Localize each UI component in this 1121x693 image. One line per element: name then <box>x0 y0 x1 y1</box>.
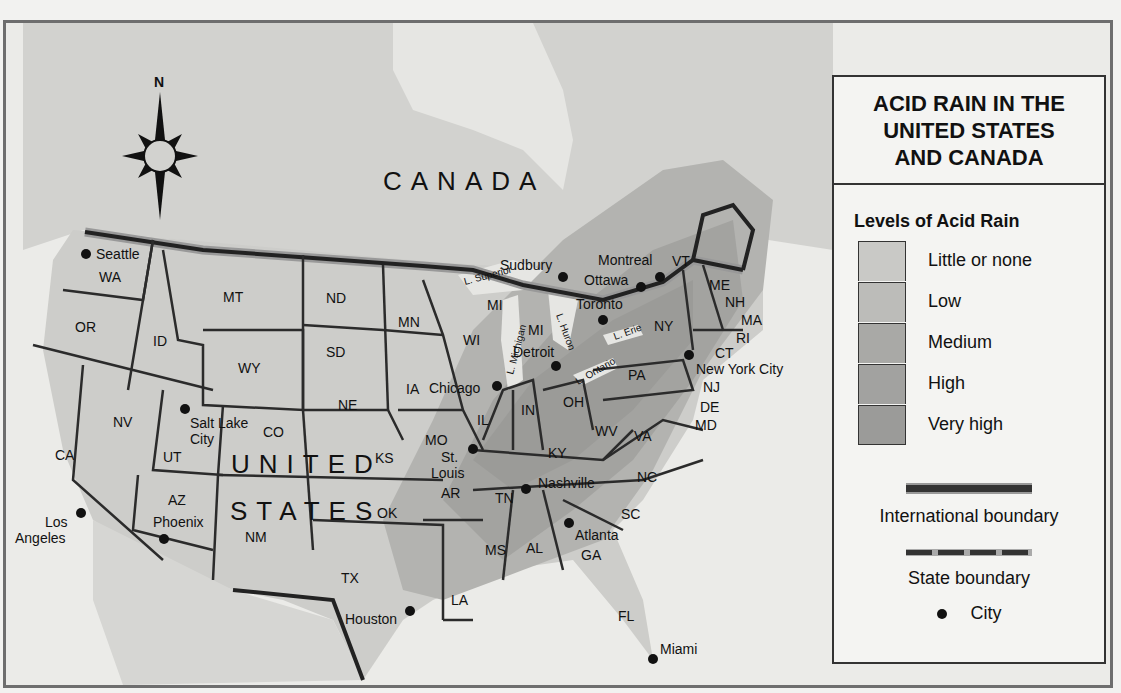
svg-text:Detroit: Detroit <box>513 344 554 360</box>
united-label: UNITED <box>231 449 382 479</box>
svg-text:Ottawa: Ottawa <box>584 272 629 288</box>
svg-text:NY: NY <box>654 318 674 334</box>
international-boundary-icon <box>906 483 1032 494</box>
svg-text:Salt Lake: Salt Lake <box>190 415 249 431</box>
svg-text:New York City: New York City <box>696 361 783 377</box>
svg-text:MO: MO <box>425 432 448 448</box>
svg-text:Seattle: Seattle <box>96 246 140 262</box>
svg-text:Angeles: Angeles <box>15 530 66 546</box>
svg-text:MS: MS <box>485 542 506 558</box>
svg-text:IL: IL <box>477 412 489 428</box>
svg-text:SD: SD <box>326 344 345 360</box>
legend-level-very-high: Very high <box>834 404 1104 445</box>
svg-text:Los: Los <box>45 514 68 530</box>
svg-text:WA: WA <box>99 269 122 285</box>
svg-text:IA: IA <box>406 381 420 397</box>
svg-text:NJ: NJ <box>703 379 720 395</box>
svg-text:VA: VA <box>634 428 652 444</box>
svg-text:St.: St. <box>441 449 458 465</box>
legend-level-medium: Medium <box>834 322 1104 363</box>
svg-text:Louis: Louis <box>431 465 464 481</box>
svg-text:WV: WV <box>595 423 618 439</box>
swatch-medium <box>858 323 906 363</box>
svg-text:OR: OR <box>75 319 96 335</box>
svg-text:Miami: Miami <box>660 641 697 657</box>
svg-text:City: City <box>190 431 214 447</box>
svg-text:TN: TN <box>495 490 514 506</box>
svg-text:AL: AL <box>526 540 543 556</box>
svg-text:ME: ME <box>709 277 730 293</box>
svg-text:MI: MI <box>528 322 544 338</box>
svg-text:KY: KY <box>548 445 567 461</box>
legend-level-little: Little or none <box>834 240 1104 281</box>
svg-text:IN: IN <box>521 402 535 418</box>
svg-text:MA: MA <box>741 312 763 328</box>
svg-text:CO: CO <box>263 424 284 440</box>
compass-north-label: N <box>154 74 164 90</box>
svg-text:NH: NH <box>725 294 745 310</box>
svg-text:FL: FL <box>618 608 635 624</box>
svg-text:DE: DE <box>700 399 719 415</box>
svg-text:ID: ID <box>153 333 167 349</box>
legend-heading: Levels of Acid Rain <box>854 211 1104 232</box>
svg-text:VT: VT <box>672 253 690 269</box>
svg-text:NC: NC <box>637 469 657 485</box>
legend-international-boundary: International boundary <box>834 483 1104 527</box>
svg-text:WI: WI <box>463 332 480 348</box>
legend: ACID RAIN IN THE UNITED STATES AND CANAD… <box>832 75 1106 664</box>
states-label: STATES <box>230 496 381 526</box>
canada-label: CANADA <box>383 166 545 196</box>
legend-state-boundary: State boundary <box>834 549 1104 589</box>
svg-text:MN: MN <box>398 314 420 330</box>
svg-text:SC: SC <box>621 506 640 522</box>
state-boundary-icon <box>906 549 1032 556</box>
legend-city: City <box>834 603 1104 624</box>
svg-text:NM: NM <box>245 529 267 545</box>
svg-text:MI: MI <box>487 297 503 313</box>
svg-text:NV: NV <box>113 414 133 430</box>
svg-text:MD: MD <box>695 417 717 433</box>
svg-text:ND: ND <box>326 290 346 306</box>
svg-text:Toronto: Toronto <box>576 296 623 312</box>
svg-text:GA: GA <box>581 547 602 563</box>
svg-text:KS: KS <box>375 450 394 466</box>
swatch-low <box>858 282 906 322</box>
legend-level-low: Low <box>834 281 1104 322</box>
svg-text:Nashville: Nashville <box>538 475 595 491</box>
svg-text:OH: OH <box>563 394 584 410</box>
svg-text:NE: NE <box>338 397 357 413</box>
svg-text:Montreal: Montreal <box>598 252 652 268</box>
svg-text:Atlanta: Atlanta <box>575 527 619 543</box>
svg-text:LA: LA <box>451 592 469 608</box>
svg-text:UT: UT <box>163 449 182 465</box>
svg-text:Sudbury: Sudbury <box>500 257 552 273</box>
svg-text:OK: OK <box>377 505 398 521</box>
svg-text:MT: MT <box>223 289 244 305</box>
svg-text:Houston: Houston <box>345 611 397 627</box>
svg-text:TX: TX <box>341 570 360 586</box>
svg-text:Phoenix: Phoenix <box>153 514 204 530</box>
svg-text:AZ: AZ <box>168 492 186 508</box>
svg-text:PA: PA <box>628 367 646 383</box>
svg-text:CA: CA <box>55 447 75 463</box>
svg-text:AR: AR <box>441 485 460 501</box>
svg-text:Chicago: Chicago <box>429 380 481 396</box>
svg-text:WY: WY <box>238 360 261 376</box>
swatch-high <box>858 364 906 404</box>
svg-text:CT: CT <box>715 345 734 361</box>
legend-level-high: High <box>834 363 1104 404</box>
city-dot-icon <box>937 609 947 619</box>
legend-levels: Little or none Low Medium High Very high <box>834 240 1104 445</box>
swatch-little <box>858 241 906 281</box>
map-title: ACID RAIN IN THE UNITED STATES AND CANAD… <box>834 77 1104 185</box>
svg-text:RI: RI <box>736 330 750 346</box>
swatch-very-high <box>858 405 906 445</box>
